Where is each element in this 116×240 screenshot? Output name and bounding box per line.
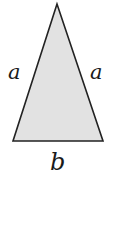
left-side-label: a (8, 62, 21, 83)
base-label: b (50, 150, 65, 174)
right-side-label: a (90, 62, 103, 83)
